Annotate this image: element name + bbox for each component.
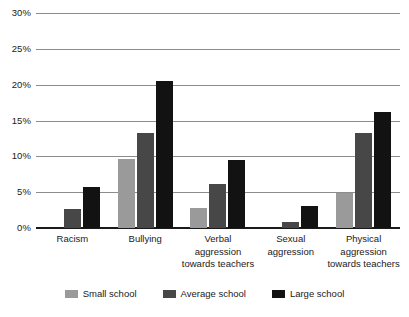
chart-legend: Small schoolAverage schoolLarge school xyxy=(0,286,409,302)
legend-swatch-icon xyxy=(163,290,176,298)
bar xyxy=(83,187,100,228)
bar-group xyxy=(254,13,327,228)
bar-group xyxy=(109,13,182,228)
x-tick-label: Bullying xyxy=(109,233,182,246)
bar xyxy=(336,193,353,228)
legend-item: Large school xyxy=(272,289,344,299)
bar xyxy=(190,208,207,228)
y-tick-label: 15% xyxy=(12,116,31,126)
x-axis-category-labels: RacismBullyingVerbal aggression towards … xyxy=(36,233,400,279)
y-tick-label: 25% xyxy=(12,44,31,54)
bar xyxy=(209,184,226,228)
y-tick-label: 10% xyxy=(12,151,31,161)
bar xyxy=(301,206,318,228)
bar xyxy=(64,209,81,228)
plot-area xyxy=(36,13,400,228)
legend-swatch-icon xyxy=(65,290,78,298)
y-tick-label: 30% xyxy=(12,8,31,18)
bar-group xyxy=(327,13,400,228)
bar xyxy=(282,222,299,228)
y-tick-label: 20% xyxy=(12,80,31,90)
x-tick-label: Sexual aggression xyxy=(254,233,327,258)
bar-chart: 30%25%20%15%10%5%0% RacismBullyingVerbal… xyxy=(0,0,409,317)
legend-item: Small school xyxy=(65,289,137,299)
bar xyxy=(137,133,154,228)
legend-label: Large school xyxy=(290,289,344,299)
legend-label: Average school xyxy=(181,289,246,299)
bar xyxy=(355,133,372,228)
x-tick-label: Racism xyxy=(36,233,109,246)
bar-group xyxy=(182,13,255,228)
y-tick-label: 5% xyxy=(17,187,31,197)
bar xyxy=(156,81,173,228)
bar xyxy=(228,160,245,228)
x-tick-label: Physical aggression towards teachers xyxy=(327,233,400,271)
bar xyxy=(374,112,391,228)
legend-swatch-icon xyxy=(272,290,285,298)
legend-item: Average school xyxy=(163,289,246,299)
x-tick-label: Verbal aggression towards teachers xyxy=(182,233,255,271)
y-tick-label: 0% xyxy=(17,223,31,233)
bar xyxy=(118,159,135,228)
bar-group xyxy=(36,13,109,228)
y-axis-tick-labels: 30%25%20%15%10%5%0% xyxy=(0,13,31,228)
legend-label: Small school xyxy=(83,289,137,299)
